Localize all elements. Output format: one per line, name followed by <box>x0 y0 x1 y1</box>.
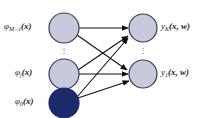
label-y-K-arg: (x, w) <box>169 21 190 31</box>
edge-phi0-to-yK <box>77 38 128 97</box>
label-y-1: y1(x, w) <box>161 68 189 78</box>
label-phi-M-1-arg: (x) <box>21 21 32 31</box>
ellipsis-dot: · <box>61 52 67 54</box>
network-diagram: φM−1(x) φj(x) φ0(x) yK(x, w) y1(x, w) · … <box>0 0 208 118</box>
output-layer-vertical-ellipsis: · · · <box>140 47 146 54</box>
node-phi-M-1[interactable] <box>49 13 79 43</box>
ellipsis-dot: · <box>140 52 146 54</box>
label-phi-0-arg: (x) <box>23 96 34 106</box>
label-phi-M-1-sub: M−1 <box>9 26 21 32</box>
edge-phi0-to-y1 <box>78 81 129 98</box>
input-layer-vertical-ellipsis: · · · <box>61 47 67 54</box>
label-phi-j-arg: (x) <box>22 67 33 77</box>
edge-phiM1-to-y1 <box>77 35 127 70</box>
label-phi-0: φ0(x) <box>15 97 33 107</box>
label-y-K: yK(x, w) <box>161 22 190 32</box>
label-y-1-arg: (x, w) <box>168 67 189 77</box>
input-node-group <box>49 13 79 118</box>
node-phi-j[interactable] <box>49 59 79 89</box>
node-phi-0[interactable] <box>49 88 79 118</box>
edge-group <box>77 28 129 98</box>
node-y-K[interactable] <box>129 14 157 42</box>
node-y-1[interactable] <box>129 60 157 88</box>
label-phi-j: φj(x) <box>15 68 32 78</box>
label-phi-M-1: φM−1(x) <box>4 22 32 32</box>
